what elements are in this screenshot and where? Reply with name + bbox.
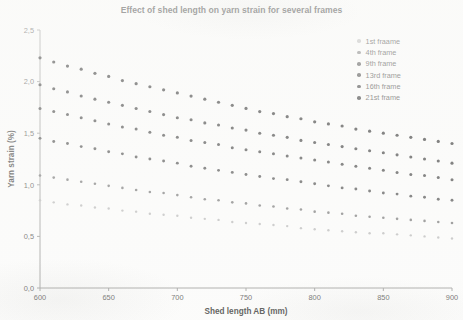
data-point [286,136,289,139]
data-point [437,140,440,143]
data-point [93,98,96,101]
data-point [451,178,454,181]
y-axis-ticks: 0,00,51,01,52,02,5 [24,26,40,293]
data-point [423,220,426,223]
data-point [217,101,220,104]
data-point [231,201,234,204]
data-point [38,56,41,59]
data-point [299,117,302,120]
data-point [176,116,179,119]
data-point [423,235,425,237]
data-point [176,194,179,197]
data-point [327,229,329,231]
data-point [354,127,357,130]
data-point [176,136,179,139]
data-point [286,225,288,227]
data-point [244,129,247,132]
data-series [39,137,454,202]
data-point [299,156,302,159]
data-point [313,120,316,123]
data-point [423,196,426,199]
data-point [204,218,206,220]
legend-item[interactable]: 4th frame [357,47,401,57]
data-point [162,214,164,216]
legend-label: 1st fraame [366,37,400,46]
data-point [121,126,124,129]
x-tick-label: 650 [102,293,114,302]
data-point [53,201,55,203]
data-point [121,152,124,155]
data-point [244,107,247,110]
data-point [217,169,220,172]
data-point [396,171,399,174]
data-point [272,112,275,115]
data-point [107,150,110,153]
legend-label: 13rd frame [366,71,401,80]
data-point [190,196,193,199]
data-point [410,219,413,222]
data-point [327,184,330,187]
chart-container: Effect of shed length on yarn strain for… [0,0,463,320]
data-point [162,88,165,91]
y-tick-label: 0,0 [24,284,34,293]
data-point [148,158,151,161]
data-point [437,160,440,163]
data-point [272,177,275,180]
data-point [176,215,178,217]
data-point [189,94,192,97]
x-axis-title: Shed length AB (mm) [205,307,288,316]
data-point [258,110,261,113]
data-point [396,233,398,235]
data-point [190,118,193,121]
y-axis-title: Yarn strain (%) [7,130,16,188]
data-point [327,211,330,214]
data-point [162,192,165,195]
legend-item[interactable]: 16th frame [357,82,401,92]
data-point [258,175,261,178]
data-point [313,228,315,230]
data-point [368,130,371,133]
data-point [341,212,344,215]
data-point [190,165,193,168]
data-point [203,121,206,124]
data-point [38,83,41,86]
data-point [80,145,83,148]
data-point [231,146,234,149]
data-point [176,162,179,165]
data-point [231,171,234,174]
data-point [190,217,192,219]
legend-marker-icon [357,85,361,89]
data-point [245,148,248,151]
data-point [107,75,110,78]
data-point [217,143,220,146]
data-point [409,136,412,139]
y-tick-label: 1,5 [24,129,34,138]
data-point [135,107,138,110]
data-point [121,104,124,107]
data-point [203,141,206,144]
data-point [368,149,371,152]
data-point [286,207,289,210]
legend-marker-icon [357,62,361,66]
data-point [368,215,371,218]
data-point [286,178,289,181]
data-point [176,91,179,94]
data-point [217,219,219,221]
legend-item[interactable]: 21st frame [357,93,401,103]
data-point [423,138,426,141]
data-point [80,116,83,119]
data-point [107,101,110,104]
data-point [66,203,68,205]
data-point [121,79,124,82]
data-point [93,72,96,75]
legend-item[interactable]: 13rd frame [357,70,401,80]
data-point [39,174,42,177]
data-point [382,217,385,220]
data-point [80,204,82,206]
data-point [162,113,165,116]
legend-item[interactable]: 1st fraame [357,36,401,46]
legend-item[interactable]: 9th frame [357,59,401,69]
data-point [80,95,83,98]
y-tick-label: 2,5 [24,26,34,35]
y-tick-label: 1,0 [24,181,34,190]
